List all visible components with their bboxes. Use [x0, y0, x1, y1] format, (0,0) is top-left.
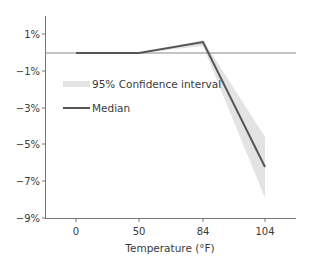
- x-tick-labels: 0 50 84 104: [73, 226, 275, 237]
- y-tick-label: −3%: [16, 103, 40, 114]
- ci-legend-label: 95% Confidence interval: [92, 78, 221, 90]
- y-tick-label: −9%: [16, 213, 40, 224]
- confidence-interval-band: [76, 40, 265, 198]
- median-legend-label: Median: [92, 102, 130, 114]
- x-axis-title: Temperature (°F): [124, 242, 214, 254]
- legend: 95% Confidence interval Median: [63, 78, 221, 114]
- y-tick-label: −5%: [16, 139, 40, 150]
- y-tick-label: −1%: [16, 66, 40, 77]
- x-tick-label: 50: [133, 226, 146, 237]
- y-tick-labels: 1% −1% −3% −5% −7% −9%: [16, 29, 40, 224]
- y-ticks: [42, 34, 45, 218]
- x-tick-label: 104: [255, 226, 274, 237]
- ci-legend-swatch: [63, 81, 90, 87]
- x-tick-label: 0: [73, 226, 79, 237]
- y-tick-label: 1%: [24, 29, 40, 40]
- x-tick-label: 84: [197, 226, 210, 237]
- y-tick-label: −7%: [16, 176, 40, 187]
- chart: 1% −1% −3% −5% −7% −9% 0 50 84 104 Tempe…: [0, 0, 316, 265]
